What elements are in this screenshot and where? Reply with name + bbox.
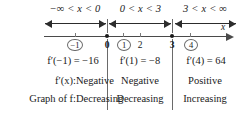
derivative-sign-chart: −∞ < x < 0 0 < x < 3 3 < x < ∞ x −1 0 1 … — [0, 0, 241, 113]
interval-span-arrow-1 — [45, 19, 106, 28]
axis-tick-label-2: 2 — [130, 39, 150, 51]
interval-span-arrow-2 — [109, 19, 171, 28]
arrow-bar — [175, 23, 236, 24]
axis-tick-4 — [190, 33, 191, 37]
derivative-sign-1: Negative — [76, 74, 107, 88]
derivative-value-2: f′(1) = −8 — [110, 54, 170, 68]
row-label-derivative: f′(x): — [0, 74, 76, 88]
axis-tick-2 — [140, 33, 141, 37]
graph-behavior-2: Decreasing — [110, 92, 170, 106]
interval-range-label-3: 3 < x < ∞ — [173, 2, 237, 16]
row-label-graph: Graph of f: — [0, 92, 76, 106]
derivative-value-3: f′(4) = 64 — [176, 54, 236, 68]
axis-arrowhead-icon — [226, 33, 234, 41]
critical-point-dot-3 — [170, 34, 175, 39]
interval-range-label-2: 0 < x < 3 — [108, 2, 173, 16]
derivative-sign-3: Positive — [176, 74, 234, 88]
arrow-bar — [45, 23, 106, 24]
critical-divider-0-upper — [107, 19, 108, 33]
axis-tick-label--1: −1 — [64, 39, 86, 51]
arrow-right-head-icon — [99, 20, 106, 28]
axis-label-x: x — [221, 22, 225, 32]
graph-behavior-1: Decreasing — [76, 92, 107, 106]
critical-divider-3-upper — [172, 19, 173, 33]
axis-tick-label-4: 4 — [180, 39, 202, 51]
critical-point-dot-0 — [105, 34, 110, 39]
axis-tick-label-3: 3 — [162, 39, 182, 51]
arrow-right-head-icon — [229, 20, 236, 28]
axis-tick-1 — [123, 33, 124, 37]
derivative-value-1: f′(−1) = −16 — [40, 54, 106, 68]
arrow-right-head-icon — [164, 20, 171, 28]
axis-tick--1 — [75, 33, 76, 37]
number-line-axis — [44, 36, 228, 37]
derivative-sign-2: Negative — [110, 74, 170, 88]
arrow-bar — [109, 23, 171, 24]
graph-behavior-3: Increasing — [176, 92, 234, 106]
interval-span-arrow-3 — [175, 19, 236, 28]
interval-range-label-1: −∞ < x < 0 — [42, 2, 108, 16]
